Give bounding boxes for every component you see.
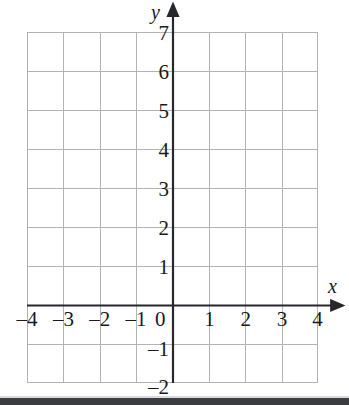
bottom-page-band <box>0 398 349 405</box>
y-tick-label-3: 3 <box>159 178 170 199</box>
y-tick-label-6: 6 <box>159 61 170 82</box>
x-tick-label--4: –4 <box>17 309 38 330</box>
x-axis-name-label: x <box>328 276 337 296</box>
origin-label-0: 0 <box>155 309 166 330</box>
x-tick-label--1: –1 <box>126 309 147 330</box>
y-tick-label-1: 1 <box>159 256 170 277</box>
y-tick-label-5: 5 <box>159 100 170 121</box>
y-axis-name-label: y <box>151 2 160 22</box>
y-tick-label-7: 7 <box>159 22 170 43</box>
x-tick-label-3: 3 <box>277 309 288 330</box>
x-tick-label-4: 4 <box>312 309 323 330</box>
y-tick-label-2: 2 <box>159 217 170 238</box>
coordinate-graph: –4 –3 –2 –1 0 1 2 3 4 7 6 5 4 3 2 1 –1 –… <box>0 0 349 405</box>
y-tick-label-4: 4 <box>159 139 170 160</box>
y-tick-label--2: –2 <box>148 376 169 397</box>
x-tick-label-1: 1 <box>204 309 215 330</box>
x-tick-label-2: 2 <box>241 309 252 330</box>
x-tick-label--3: –3 <box>53 309 74 330</box>
y-tick-label--1: –1 <box>148 338 169 359</box>
x-tick-label--2: –2 <box>89 309 110 330</box>
